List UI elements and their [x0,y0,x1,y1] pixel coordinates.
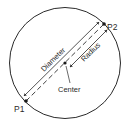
center-leader-line [66,66,70,83]
label-p2: P2 [107,22,118,32]
point-p1 [24,99,28,103]
label-p1: P1 [14,104,25,114]
center-point [63,61,66,64]
point-p2 [102,22,106,26]
label-center: Center [58,85,81,94]
circle-diagram: P2 P1 Center Diameter Radius [0,0,129,132]
label-radius: Radius [79,40,102,63]
label-diameter: Diameter [39,45,67,73]
